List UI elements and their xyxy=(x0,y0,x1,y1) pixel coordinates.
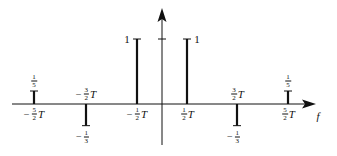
value-label-m52: 15 xyxy=(30,74,38,89)
freq-label-m52: −52T xyxy=(24,107,44,122)
value-label-m32: −13 xyxy=(76,129,90,144)
value-label-p32: −13 xyxy=(227,129,241,144)
spectral-lines xyxy=(30,39,292,126)
value-label-p12: 1 xyxy=(194,34,200,45)
freq-label-p32: 32T xyxy=(230,87,244,102)
freq-label-p12: 12T xyxy=(180,107,194,122)
freq-label-m32: −32T xyxy=(76,87,96,102)
freq-label-p52: 52T xyxy=(281,107,295,122)
freq-label-m12: −12T xyxy=(127,107,147,122)
frequency-axis-label: f xyxy=(316,111,319,122)
value-label-p52: 15 xyxy=(284,74,292,89)
value-label-m12: 1 xyxy=(124,34,130,45)
